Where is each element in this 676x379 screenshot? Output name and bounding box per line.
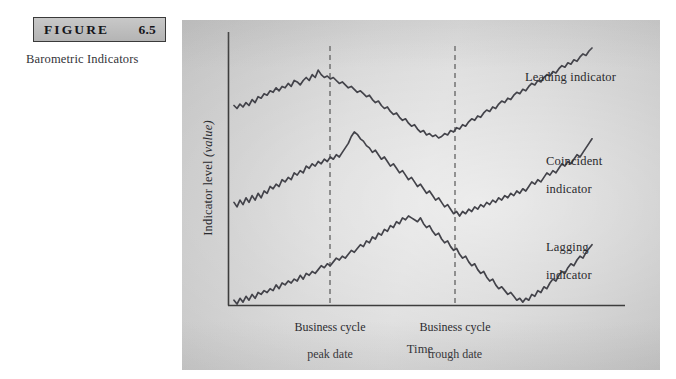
series-label-coincident-line2: indicator xyxy=(546,182,660,196)
figure-caption-column: FIGURE 6.5 Barometric Indicators xyxy=(0,0,182,379)
series-label-lagging-line1: Lagging xyxy=(546,240,660,254)
series-label-leading: Leading indicator xyxy=(525,56,655,98)
trough-date-label-line2: trough date xyxy=(395,348,515,361)
series-label-lagging: Lagging indicator xyxy=(546,226,660,296)
reference-lines xyxy=(330,46,455,305)
series-coincident-indicator xyxy=(234,132,592,216)
series-label-coincident-line1: Coincident xyxy=(546,154,660,168)
peak-date-label-line2: peak date xyxy=(270,348,390,361)
series-label-lagging-line2: indicator xyxy=(546,268,660,282)
figure-header-box: FIGURE 6.5 xyxy=(33,17,166,42)
y-axis-label: Indicator level (value) xyxy=(201,103,215,253)
chart-panel: Indicator level (value) Time Business cy… xyxy=(182,20,660,370)
y-axis-label-plain: Indicator level xyxy=(201,160,215,236)
figure-number: 6.5 xyxy=(139,22,156,38)
peak-date-label: Business cycle peak date xyxy=(270,308,390,370)
trough-date-label: Business cycle trough date xyxy=(395,308,515,370)
y-axis-label-value: (value) xyxy=(201,120,215,157)
figure-label: FIGURE xyxy=(44,22,109,38)
figure-caption-text: Barometric Indicators xyxy=(26,52,176,67)
series-lagging-indicator xyxy=(234,216,592,304)
y-axis-label-italic xyxy=(201,157,215,160)
series-label-leading-line1: Leading indicator xyxy=(525,70,655,84)
peak-date-label-line1: Business cycle xyxy=(270,321,390,334)
trough-date-label-line1: Business cycle xyxy=(395,321,515,334)
series-label-coincident: Coincident indicator xyxy=(546,140,660,210)
